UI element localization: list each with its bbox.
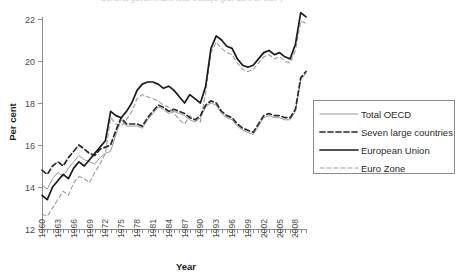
y-tick-label: 18 — [25, 99, 35, 109]
x-tick-label: 2008 — [290, 219, 300, 238]
x-tick-label: 1996 — [227, 219, 237, 238]
y-tick-label: 16 — [25, 141, 35, 151]
y-tick-label: 12 — [25, 225, 35, 235]
series-line-euro-zone — [42, 21, 306, 216]
x-tick-label: 1990 — [195, 219, 205, 238]
legend-label-2: European Union — [361, 145, 430, 156]
x-tick-label: 1987 — [180, 219, 190, 238]
x-tick-label: 1960 — [37, 219, 47, 238]
legend-label-3: Euro Zone — [361, 163, 405, 174]
legend-label-1: Seven large countries — [361, 127, 453, 138]
x-tick-label: 1969 — [85, 219, 95, 238]
x-tick-label: 1966 — [69, 219, 79, 238]
series-line-european-union — [42, 13, 306, 200]
x-tick-label: 2005 — [275, 219, 285, 238]
y-tick-group — [38, 20, 43, 230]
x-tick-label: 1963 — [53, 219, 63, 238]
x-tick-label: 2002 — [259, 219, 269, 238]
x-tick-label-group: 1960196319661969197219751978198119841987… — [37, 219, 300, 238]
x-tick-label: 1978 — [132, 219, 142, 238]
y-axis-title: Per cent — [7, 102, 18, 140]
y-tick-label: 20 — [25, 57, 35, 67]
series-line-seven-large-countries — [42, 72, 306, 175]
x-tick-label: 1981 — [148, 219, 158, 238]
line-chart: 121416182022 196019631966196919721975197… — [0, 0, 457, 277]
x-tick-label: 1984 — [164, 219, 174, 238]
legend-label-0: Total OECD — [361, 109, 411, 120]
y-tick-label: 14 — [25, 183, 35, 193]
y-tick-label-group: 121416182022 — [25, 15, 35, 235]
x-tick-label: 1993 — [211, 219, 221, 238]
x-tick-label: 1972 — [100, 219, 110, 238]
y-tick-label: 22 — [25, 15, 35, 25]
x-tick-label: 1999 — [243, 219, 253, 238]
x-axis-title: Year — [176, 261, 196, 272]
x-tick-label: 1975 — [116, 219, 126, 238]
series-group — [42, 13, 306, 217]
